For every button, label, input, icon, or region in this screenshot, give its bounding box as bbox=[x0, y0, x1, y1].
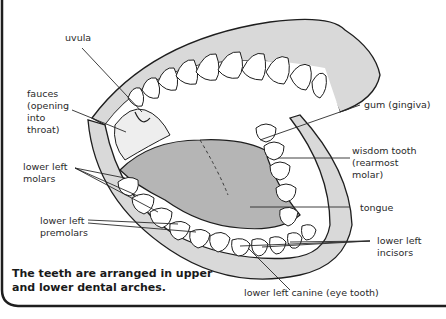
label-lower-left-molars: lower left molars bbox=[23, 161, 67, 185]
dental-arches-diagram: uvula fauces (opening into throat) gum (… bbox=[0, 0, 446, 319]
label-gum: gum (gingiva) bbox=[364, 99, 431, 111]
figure-caption: The teeth are arranged in upper and lowe… bbox=[12, 267, 212, 295]
label-lower-left-canine: lower left canine (eye tooth) bbox=[244, 287, 379, 299]
label-fauces: fauces (opening into throat) bbox=[27, 88, 69, 136]
label-uvula: uvula bbox=[65, 32, 91, 44]
label-lower-left-incisors: lower left incisors bbox=[377, 235, 421, 259]
label-lower-left-premolars: lower left premolars bbox=[40, 215, 88, 239]
label-wisdom-tooth: wisdom tooth (rearmost molar) bbox=[352, 145, 417, 181]
label-tongue: tongue bbox=[360, 202, 393, 214]
